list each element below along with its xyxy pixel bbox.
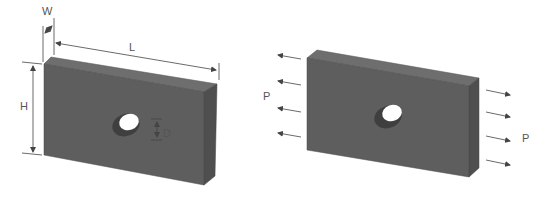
label-w: W — [42, 5, 53, 17]
label-p-left: P — [263, 90, 270, 102]
right-plate-side-face — [469, 78, 479, 177]
label-d: D — [163, 127, 171, 139]
load-arrows-right — [486, 90, 510, 165]
left-plate-side-face — [204, 84, 217, 185]
label-p-right: P — [522, 132, 529, 144]
plate-diagram: W L H D P P — [0, 0, 542, 197]
label-h: H — [20, 100, 28, 112]
right-plate — [307, 50, 479, 177]
left-plate — [44, 57, 217, 185]
label-l: L — [129, 41, 135, 53]
load-arrows-left — [278, 55, 301, 137]
